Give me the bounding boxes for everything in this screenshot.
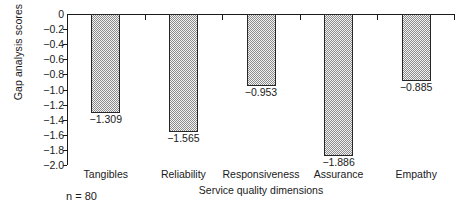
x-tick-mark bbox=[222, 15, 223, 20]
y-tick-mark bbox=[63, 90, 67, 91]
y-tick-label: −1.6 bbox=[30, 130, 64, 140]
x-tick-mark bbox=[300, 15, 301, 20]
bar-value-label: −1.309 bbox=[66, 114, 146, 125]
y-tick-label: −1.4 bbox=[30, 115, 64, 125]
y-tick-label: −0.6 bbox=[30, 54, 64, 64]
y-tick-label: 0 bbox=[30, 9, 64, 19]
y-axis-tick-labels: 0−0.2−0.4−0.6−0.8−1.0−1.2−1.4−1.6−1.8−2.… bbox=[28, 0, 64, 212]
y-tick-mark bbox=[63, 74, 67, 75]
bar bbox=[169, 14, 198, 132]
x-category-label: Empathy bbox=[377, 168, 455, 181]
y-axis-spine bbox=[67, 14, 68, 165]
bar bbox=[247, 14, 276, 86]
x-category-label: Reliability bbox=[145, 168, 223, 181]
x-category-label: Responsiveness bbox=[222, 168, 300, 181]
y-tick-label: −1.0 bbox=[30, 85, 64, 95]
x-tick-mark bbox=[145, 15, 146, 20]
y-tick-label: −0.4 bbox=[30, 39, 64, 49]
y-axis-title: Gap analysis scores bbox=[12, 0, 24, 127]
bar-value-label: −1.886 bbox=[299, 157, 379, 168]
x-axis-title: Service quality dimensions bbox=[67, 184, 455, 196]
y-tick-label: −2.0 bbox=[30, 160, 64, 170]
y-tick-label: −0.8 bbox=[30, 69, 64, 79]
y-tick-mark bbox=[63, 29, 67, 30]
x-category-label: Tangibles bbox=[67, 168, 145, 181]
bar-value-label: −0.885 bbox=[376, 82, 456, 93]
bar-value-label: −0.953 bbox=[221, 87, 301, 98]
x-tick-mark bbox=[377, 15, 378, 20]
y-tick-mark bbox=[63, 44, 67, 45]
y-tick-label: −1.8 bbox=[30, 145, 64, 155]
bar-value-label: −1.565 bbox=[143, 133, 223, 144]
x-tick-mark-end bbox=[454, 15, 455, 20]
bar bbox=[402, 14, 431, 81]
y-tick-mark bbox=[63, 105, 67, 106]
y-tick-label: −0.2 bbox=[30, 24, 64, 34]
gap-analysis-bar-chart: Gap analysis scores 0−0.2−0.4−0.6−0.8−1.… bbox=[0, 0, 466, 212]
x-category-label: Assurance bbox=[300, 168, 378, 181]
x-axis-category-labels: TangiblesReliabilityResponsivenessAssura… bbox=[67, 168, 455, 182]
sample-size-note: n = 80 bbox=[66, 190, 97, 202]
y-tick-mark bbox=[63, 135, 67, 136]
y-tick-mark bbox=[63, 165, 67, 166]
bar bbox=[324, 14, 353, 156]
plot-area: −1.309−1.565−0.953−1.886−0.885 bbox=[67, 14, 455, 165]
bar bbox=[91, 14, 120, 113]
y-tick-mark bbox=[63, 150, 67, 151]
y-tick-mark bbox=[63, 59, 67, 60]
y-tick-label: −1.2 bbox=[30, 100, 64, 110]
